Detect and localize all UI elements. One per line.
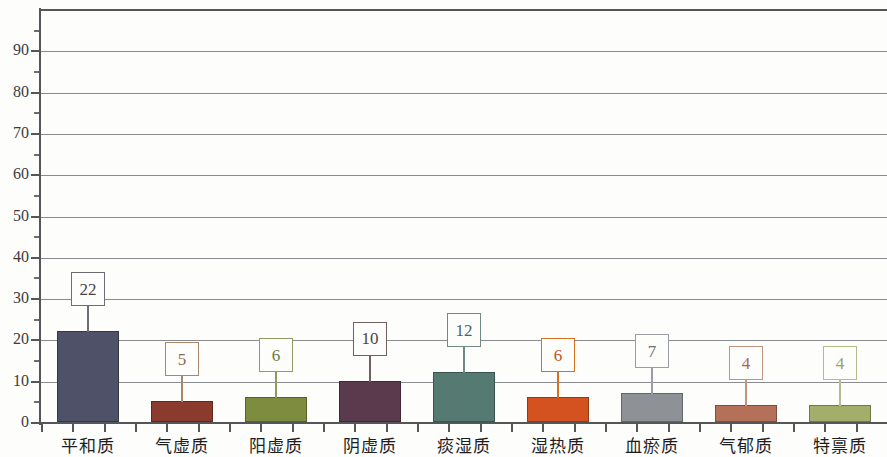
data-label-leader-line xyxy=(87,306,89,332)
data-label-leader-line xyxy=(369,356,371,382)
bar xyxy=(433,372,495,422)
category-label: 阳虚质 xyxy=(229,432,323,457)
bar xyxy=(57,331,119,422)
data-label: 4 xyxy=(729,346,763,380)
x-tick xyxy=(542,424,544,432)
bar xyxy=(151,401,213,422)
bar xyxy=(715,405,777,422)
x-tick xyxy=(668,424,670,432)
bar xyxy=(527,397,589,422)
category-label: 阴虚质 xyxy=(323,432,417,457)
data-label: 4 xyxy=(823,346,857,380)
category-label: 气郁质 xyxy=(699,432,793,457)
x-tick xyxy=(574,424,576,432)
x-tick xyxy=(292,424,294,432)
bar-chart: 0102030405060708090 225610126744 平和质气虚质阳… xyxy=(0,0,887,457)
x-tick xyxy=(72,424,74,432)
y-tick-label-30: 30 xyxy=(1,290,29,306)
x-tick xyxy=(448,424,450,432)
y-tick-label-0: 0 xyxy=(1,414,29,430)
bar xyxy=(339,381,401,422)
y-tick-label-60: 60 xyxy=(1,166,29,182)
data-label: 10 xyxy=(353,322,387,356)
x-tick xyxy=(417,424,419,432)
data-label-leader-line xyxy=(651,368,653,394)
bar xyxy=(621,393,683,422)
category-label: 特禀质 xyxy=(793,432,887,457)
x-tick xyxy=(135,424,137,432)
x-tick xyxy=(323,424,325,432)
y-tick-label-10: 10 xyxy=(1,373,29,389)
data-label: 22 xyxy=(71,272,105,306)
category-label: 平和质 xyxy=(41,432,135,457)
x-tick xyxy=(699,424,701,432)
data-label: 7 xyxy=(635,334,669,368)
category-label: 气虚质 xyxy=(135,432,229,457)
x-tick xyxy=(354,424,356,432)
y-tick-label-20: 20 xyxy=(1,331,29,347)
x-tick xyxy=(605,424,607,432)
category-label: 痰湿质 xyxy=(417,432,511,457)
x-tick xyxy=(511,424,513,432)
data-label: 6 xyxy=(541,338,575,372)
data-label-leader-line xyxy=(557,372,559,398)
x-tick xyxy=(824,424,826,432)
data-label-leader-line xyxy=(745,380,747,406)
data-label-leader-line xyxy=(181,376,183,402)
y-axis-labels: 0102030405060708090 xyxy=(0,0,29,457)
x-tick xyxy=(762,424,764,432)
category-label: 血瘀质 xyxy=(605,432,699,457)
x-tick xyxy=(41,424,43,432)
x-tick xyxy=(386,424,388,432)
data-label-leader-line xyxy=(839,380,841,406)
x-tick xyxy=(730,424,732,432)
x-tick xyxy=(104,424,106,432)
bar xyxy=(245,397,307,422)
y-tick-label-50: 50 xyxy=(1,208,29,224)
data-label-leader-line xyxy=(275,372,277,398)
y-tick-label-80: 80 xyxy=(1,84,29,100)
data-label: 5 xyxy=(165,342,199,376)
data-label: 6 xyxy=(259,338,293,372)
x-tick xyxy=(198,424,200,432)
y-tick-label-70: 70 xyxy=(1,125,29,141)
y-tick-label-90: 90 xyxy=(1,42,29,58)
x-tick xyxy=(166,424,168,432)
data-label-leader-line xyxy=(463,347,465,373)
x-tick xyxy=(856,424,858,432)
data-label: 12 xyxy=(447,313,481,347)
x-tick xyxy=(229,424,231,432)
y-tick-label-40: 40 xyxy=(1,249,29,265)
x-tick xyxy=(260,424,262,432)
category-label: 湿热质 xyxy=(511,432,605,457)
x-tick xyxy=(480,424,482,432)
bar xyxy=(809,405,871,422)
x-tick xyxy=(793,424,795,432)
x-tick xyxy=(636,424,638,432)
